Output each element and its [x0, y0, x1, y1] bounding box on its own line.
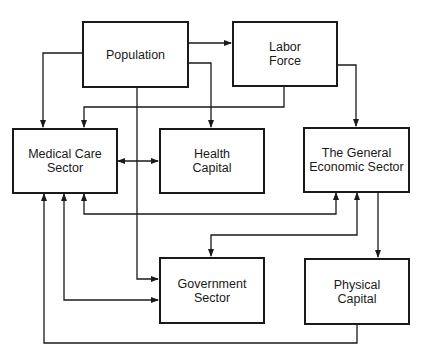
edge-labor-to-medical — [84, 86, 284, 127]
node-government-sector: Government Sector — [159, 257, 265, 324]
edge-economic-government — [211, 193, 357, 256]
edge-medical-economic — [84, 193, 336, 214]
node-physical-capital: Physical Capital — [304, 258, 410, 325]
edge-population-to-government — [137, 87, 158, 279]
node-health-capital: Health Capital — [159, 128, 265, 194]
node-general-economic-sector: The General Economic Sector — [303, 127, 410, 193]
flow-diagram: Population Labor Force Medical Care Sect… — [0, 0, 422, 357]
edge-medical-government — [64, 194, 158, 300]
edge-population-to-medical — [43, 53, 82, 127]
node-medical-care-sector: Medical Care Sector — [12, 128, 118, 194]
edge-population-to-health — [188, 63, 211, 127]
node-labor-force: Labor Force — [232, 21, 338, 87]
edge-labor-to-economic — [337, 65, 356, 126]
node-population: Population — [82, 21, 189, 88]
